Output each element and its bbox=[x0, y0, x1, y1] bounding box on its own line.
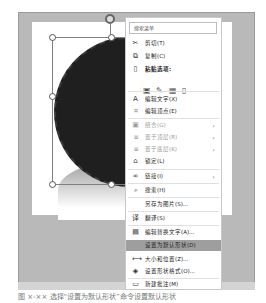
format-shape-icon: ◈ bbox=[132, 268, 139, 275]
menu-separator bbox=[128, 183, 219, 184]
menu-item-format-shape[interactable]: ◈ 设置形状格式(O)... bbox=[126, 266, 221, 277]
paste-options-row: ▣✎▦▯ bbox=[143, 78, 203, 88]
chevron-right-icon: › bbox=[213, 120, 215, 131]
menu-item-label: 新建批注(M) bbox=[145, 279, 178, 290]
clipboard-icon: ▯ bbox=[132, 66, 139, 73]
menu-item-label: 另存为图片(S)... bbox=[145, 199, 188, 210]
menu-item-copy[interactable]: ⧉ 复制(C) bbox=[126, 51, 221, 62]
menu-item-label: 翻译(S) bbox=[145, 213, 165, 224]
resize-handle-bottom[interactable] bbox=[108, 181, 115, 188]
scissors-icon: ✂ bbox=[132, 40, 139, 47]
menu-item-cut[interactable]: ✂ 剪切(T) bbox=[126, 38, 221, 49]
selection-box bbox=[52, 37, 128, 185]
menu-item-size-and-position[interactable]: ⟷ 大小和位置(Z)... bbox=[126, 254, 221, 265]
menu-item-label: 置于顶层(R) bbox=[145, 132, 177, 143]
send-back-icon: ⧈ bbox=[132, 146, 139, 153]
menu-search-input[interactable]: 搜索菜单 bbox=[129, 22, 217, 34]
menu-item-label: 大小和位置(Z)... bbox=[145, 254, 188, 265]
menu-item-label: 组合(G) bbox=[145, 120, 166, 131]
menu-item-label: 锁定(L) bbox=[145, 156, 164, 167]
menu-separator bbox=[128, 197, 219, 198]
chevron-right-icon: › bbox=[213, 171, 215, 182]
chevron-right-icon: › bbox=[213, 144, 215, 155]
menu-item-label: 设置为默认形状(D) bbox=[145, 240, 196, 251]
figure-caption: 图 ×-×× 选择“设置为默认形状”命令设置默认形状 bbox=[18, 292, 258, 302]
menu-item-label: 粘贴选项: bbox=[145, 64, 171, 75]
menu-separator bbox=[128, 169, 219, 170]
menu-separator bbox=[128, 211, 219, 212]
menu-item-label: 设置形状格式(O)... bbox=[145, 266, 195, 277]
menu-item-lock[interactable]: ⌂ 锁定(L) bbox=[126, 156, 221, 167]
menu-item-label: 链接(I) bbox=[145, 171, 163, 182]
lock-icon: ⌂ bbox=[132, 158, 139, 165]
menu-item-set-as-default-shape[interactable]: 设置为默认形状(D) bbox=[126, 240, 221, 251]
menu-separator bbox=[128, 118, 219, 119]
resize-handle-top-left[interactable] bbox=[49, 34, 56, 41]
translate-icon: 译 bbox=[132, 215, 139, 222]
menu-item-search[interactable]: ⌕ 搜索(H) bbox=[126, 185, 221, 196]
size-position-icon: ⟷ bbox=[132, 256, 139, 263]
menu-item-edit-text[interactable]: A 编辑文字(X) bbox=[126, 94, 221, 105]
edit-text-icon: A bbox=[132, 96, 139, 103]
menu-item-bring-to-front[interactable]: ⧈ 置于顶层(R) › bbox=[126, 132, 221, 143]
menu-separator bbox=[128, 225, 219, 226]
menu-item-label: 置于底层(K) bbox=[145, 144, 177, 155]
menu-item-send-to-back[interactable]: ⧈ 置于底层(K) › bbox=[126, 144, 221, 155]
menu-item-label: 编辑文字(X) bbox=[145, 94, 177, 105]
menu-item-label: 编辑替换文字(A)... bbox=[145, 227, 194, 238]
alt-text-icon: ▤ bbox=[132, 229, 139, 236]
link-icon: ∞ bbox=[132, 173, 139, 180]
context-menu: 搜索菜单 ✂ 剪切(T) ⧉ 复制(C) ▯ 粘贴选项: ▣✎▦▯ A 编辑文字… bbox=[125, 17, 222, 290]
search-icon: ⌕ bbox=[132, 187, 139, 194]
resize-handle-left[interactable] bbox=[49, 93, 56, 100]
comment-icon: ▭ bbox=[132, 281, 139, 288]
menu-item-translate[interactable]: 译 翻译(S) bbox=[126, 213, 221, 224]
menu-item-label: 剪切(T) bbox=[145, 38, 165, 49]
menu-item-edit-points[interactable]: ⌗ 编辑顶点(E) bbox=[126, 106, 221, 117]
group-icon: ▣ bbox=[132, 122, 139, 129]
edit-points-icon: ⌗ bbox=[132, 108, 139, 115]
menu-item-edit-alt-text[interactable]: ▤ 编辑替换文字(A)... bbox=[126, 227, 221, 238]
menu-item-label: 搜索(H) bbox=[145, 185, 165, 196]
menu-item-link[interactable]: ∞ 链接(I) › bbox=[126, 171, 221, 182]
copy-icon: ⧉ bbox=[132, 53, 139, 60]
menu-item-label: 编辑顶点(E) bbox=[145, 106, 177, 117]
resize-handle-bottom-left[interactable] bbox=[49, 181, 56, 188]
menu-item-save-as-picture[interactable]: 另存为图片(S)... bbox=[126, 199, 221, 210]
menu-item-label: 复制(C) bbox=[145, 51, 165, 62]
menu-item-new-comment[interactable]: ▭ 新建批注(M) bbox=[126, 279, 221, 290]
bring-front-icon: ⧈ bbox=[132, 134, 139, 141]
rotate-handle-icon[interactable] bbox=[105, 14, 115, 24]
chevron-right-icon: › bbox=[213, 132, 215, 143]
menu-item-paste-options: ▯ 粘贴选项: bbox=[126, 64, 221, 75]
menu-separator bbox=[128, 91, 219, 92]
resize-handle-top[interactable] bbox=[108, 34, 115, 41]
menu-item-group[interactable]: ▣ 组合(G) › bbox=[126, 120, 221, 131]
